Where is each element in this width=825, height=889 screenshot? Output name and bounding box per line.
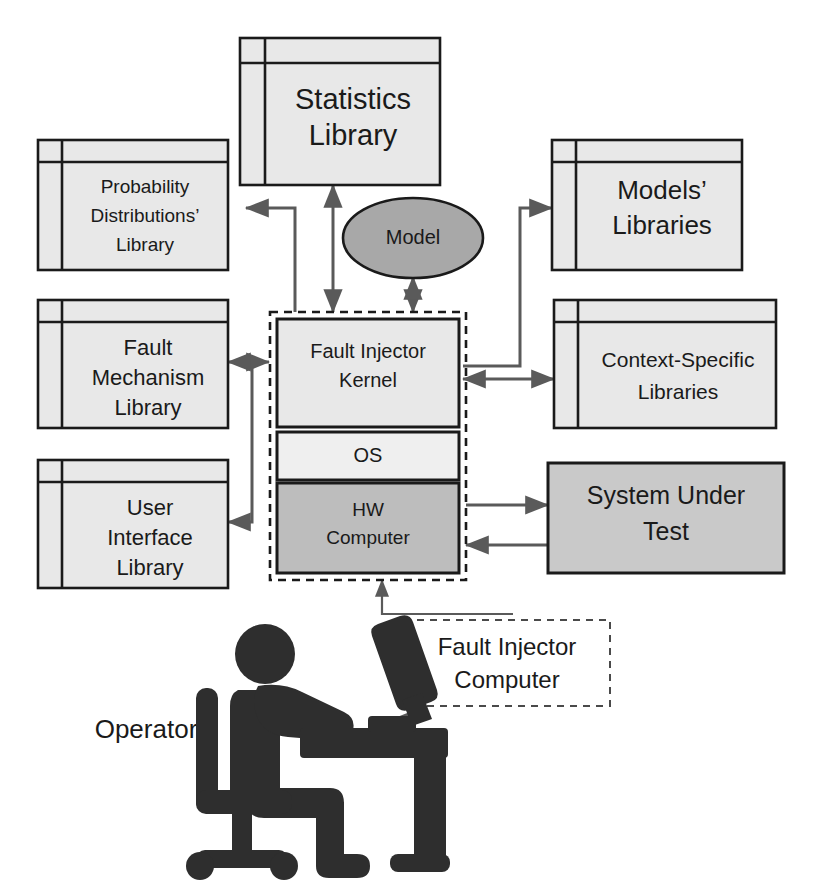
- probability-library-line3: Library: [116, 234, 175, 255]
- edge-kernel-probability: [246, 208, 295, 312]
- statistics-library-line1: Statistics: [295, 83, 411, 115]
- node-model[interactable]: Model: [343, 198, 483, 278]
- node-os[interactable]: OS: [277, 432, 459, 480]
- probability-library-line1: Probability: [101, 176, 190, 197]
- fault-mechanism-library-line2: Mechanism: [92, 365, 204, 390]
- node-fault-injector-kernel[interactable]: Fault Injector Kernel: [277, 319, 459, 427]
- architecture-diagram: Statistics Library Probability Distribut…: [0, 0, 825, 889]
- user-interface-library-line3: Library: [116, 555, 183, 580]
- node-context-specific-libraries[interactable]: Context-Specific Libraries: [554, 300, 776, 428]
- probability-library-line2: Distributions’: [91, 205, 200, 226]
- model-label: Model: [386, 226, 440, 248]
- node-probability-distributions-library[interactable]: Probability Distributions’ Library: [38, 140, 228, 270]
- node-hw-computer[interactable]: HW Computer: [277, 483, 459, 573]
- context-specific-libraries-line1: Context-Specific: [602, 348, 755, 371]
- fault-mechanism-library-line1: Fault: [124, 335, 173, 360]
- node-user-interface-library[interactable]: User Interface Library: [38, 460, 228, 588]
- edge-kernel-user-interface: [228, 362, 252, 522]
- operator-label: Operator: [95, 714, 198, 744]
- context-specific-libraries-line2: Libraries: [638, 380, 719, 403]
- diagram-canvas: Statistics Library Probability Distribut…: [0, 0, 825, 889]
- node-fault-mechanism-library[interactable]: Fault Mechanism Library: [38, 300, 228, 428]
- hw-computer-line2: Computer: [326, 527, 410, 548]
- system-under-test-line2: Test: [643, 517, 689, 545]
- fault-injector-kernel-line2: Kernel: [339, 369, 397, 391]
- fault-injector-computer-line1: Fault Injector: [438, 633, 577, 660]
- edge-label-to-stack: [382, 580, 513, 614]
- node-statistics-library[interactable]: Statistics Library: [240, 38, 440, 185]
- hw-computer-line1: HW: [352, 499, 384, 520]
- models-libraries-line1: Models’: [617, 175, 707, 205]
- models-libraries-line2: Libraries: [612, 210, 712, 240]
- node-models-libraries[interactable]: Models’ Libraries: [552, 140, 742, 270]
- user-interface-library-line2: Interface: [107, 525, 193, 550]
- operator-silhouette-icon: [186, 615, 450, 880]
- os-label: OS: [354, 444, 383, 466]
- statistics-library-line2: Library: [309, 119, 398, 151]
- fault-mechanism-library-line3: Library: [114, 395, 181, 420]
- node-system-under-test[interactable]: System Under Test: [548, 463, 784, 573]
- user-interface-library-line1: User: [127, 495, 173, 520]
- system-under-test-line1: System Under: [587, 481, 745, 509]
- node-fault-injector-stack: Fault Injector Kernel OS HW Computer: [270, 312, 466, 580]
- fault-injector-computer-line2: Computer: [454, 666, 559, 693]
- fault-injector-kernel-line1: Fault Injector: [310, 340, 426, 362]
